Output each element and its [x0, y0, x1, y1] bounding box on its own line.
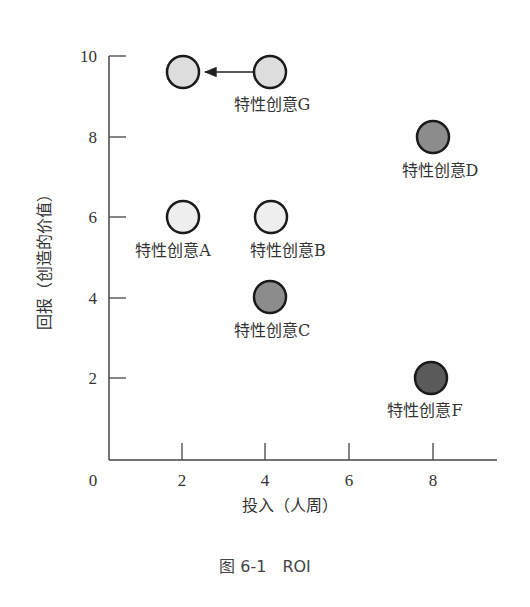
point-d: 特性创意D	[402, 121, 479, 180]
svg-text:0: 0	[89, 471, 98, 490]
point-a: 特性创意A	[135, 201, 211, 260]
svg-text:特性创意B: 特性创意B	[250, 241, 326, 260]
svg-text:特性创意A: 特性创意A	[135, 241, 211, 260]
y-ticks	[109, 56, 126, 378]
svg-text:特性创意C: 特性创意C	[234, 321, 310, 340]
svg-text:6: 6	[345, 471, 354, 490]
point-c: 特性创意C	[234, 281, 310, 340]
y-axis-title: 回报（创造的价值）	[35, 186, 54, 330]
point-g-ghost	[167, 56, 199, 88]
y-tick-labels: 10 8 6 4 2	[80, 47, 98, 388]
svg-text:4: 4	[261, 471, 270, 490]
roi-scatter-chart: 10 8 6 4 2 0 2 4 6 8 投入（人周） 回报（创造的价值） 特性…	[0, 0, 530, 607]
x-tick-labels: 0 2 4 6 8	[89, 471, 438, 490]
figure-caption: 图 6-1 ROI	[219, 557, 311, 576]
svg-text:特性创意D: 特性创意D	[402, 161, 479, 180]
svg-text:特性创意F: 特性创意F	[387, 401, 462, 420]
svg-text:8: 8	[429, 471, 438, 490]
svg-text:10: 10	[80, 47, 97, 66]
x-axis-title: 投入（人周）	[242, 496, 338, 515]
x-ticks	[182, 443, 433, 460]
point-g: 特性创意G	[234, 56, 311, 114]
svg-text:特性创意G: 特性创意G	[234, 95, 311, 114]
point-f: 特性创意F	[387, 362, 462, 420]
point-b: 特性创意B	[250, 201, 326, 260]
svg-text:2: 2	[89, 369, 98, 388]
svg-text:2: 2	[178, 471, 187, 490]
svg-text:8: 8	[89, 128, 98, 147]
svg-text:4: 4	[89, 289, 98, 308]
svg-text:6: 6	[89, 208, 98, 227]
